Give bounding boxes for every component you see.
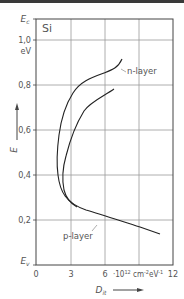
x-axis-arrow-icon (113, 288, 144, 292)
x-tick-3: 3 (68, 269, 73, 279)
ec-label: Ec (21, 14, 31, 25)
material-label: Si (42, 22, 52, 35)
x-unit-label: ·1012 cm-2eV-1 (113, 269, 163, 279)
x-tick-0: 0 (33, 269, 38, 279)
y-tick-0.2: 0,2 (18, 215, 31, 225)
y-unit-label: eV (20, 46, 31, 56)
x-tick-6: 6 (102, 269, 107, 279)
chart: Si Ec 1,0 eV 0,8 0,6 0,4 0,2 Ev E 0 3 6 … (0, 0, 184, 299)
y-axis-label: E (9, 147, 19, 153)
y-tick-0.6: 0,6 (18, 125, 31, 135)
x-tick-12: 12 (168, 269, 178, 279)
p-layer-label: p-layer (63, 231, 93, 241)
y-tick-1.0: 1,0 (18, 35, 31, 45)
x-axis-label: Dit (96, 285, 108, 296)
n-layer-label: n-layer (127, 66, 157, 76)
plot-frame (36, 19, 173, 265)
p-layer-curve (63, 89, 114, 207)
y-tick-0.8: 0,8 (18, 80, 31, 90)
ev-label: Ev (20, 256, 30, 267)
y-tick-0.4: 0,4 (18, 170, 31, 180)
grid (36, 19, 173, 265)
